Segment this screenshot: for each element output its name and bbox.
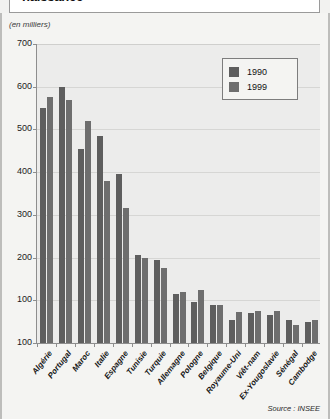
y-axis-tick-label: 100 <box>4 337 32 347</box>
y-axis-tick-label: 700 <box>4 38 32 48</box>
x-axis-tick <box>188 343 189 347</box>
bar-group <box>77 44 96 343</box>
bar-1999 <box>312 320 318 343</box>
bar-group <box>153 44 172 343</box>
y-axis-tick-label: 600 <box>4 81 32 91</box>
legend-label-1999: 1999 <box>247 82 267 92</box>
bar-1990 <box>116 174 122 343</box>
legend-label-1990: 1990 <box>247 67 267 77</box>
x-axis-tick <box>37 343 38 347</box>
bar-group <box>58 44 77 343</box>
y-axis-tick-label: 100 <box>4 294 32 304</box>
bar-1990 <box>286 320 292 343</box>
legend-swatch-1990 <box>229 67 239 77</box>
bar-1999 <box>217 305 223 343</box>
bar-group <box>304 44 323 343</box>
bar-1999 <box>255 311 261 343</box>
bar-1990 <box>135 255 141 343</box>
x-axis-tick <box>264 343 265 347</box>
y-axis-tick <box>33 129 37 130</box>
y-axis-tick <box>33 172 37 173</box>
bar-group <box>39 44 58 343</box>
x-axis-line <box>36 343 320 344</box>
y-axis-tick <box>33 215 37 216</box>
bar-1999 <box>180 292 186 343</box>
bar-1990 <box>305 322 311 343</box>
x-axis-tick <box>75 343 76 347</box>
bar-1999 <box>123 208 129 343</box>
bar-1990 <box>40 108 46 343</box>
bar-1990 <box>267 315 273 343</box>
bar-group <box>115 44 134 343</box>
y-axis: 100100200300400500600700 <box>0 44 32 343</box>
y-axis-tick-label: 300 <box>4 209 32 219</box>
y-axis-tick-label: 500 <box>4 123 32 133</box>
bar-1999 <box>104 181 110 343</box>
bar-1999 <box>142 258 148 343</box>
x-axis-tick <box>226 343 227 347</box>
bar-1990 <box>59 87 65 343</box>
bar-1999 <box>85 121 91 343</box>
x-axis-tick <box>56 343 57 347</box>
legend-swatch-1999 <box>229 82 239 92</box>
chart-legend: 1990 1999 <box>222 58 298 100</box>
bar-group <box>190 44 209 343</box>
x-axis-tick <box>132 343 133 347</box>
x-axis-tick <box>170 343 171 347</box>
bar-1990 <box>173 294 179 343</box>
page-title: naissance <box>22 0 83 4</box>
x-axis-tick <box>283 343 284 347</box>
bar-1990 <box>97 136 103 343</box>
y-axis-tick-label: 200 <box>4 252 32 262</box>
bar-1990 <box>191 302 197 343</box>
bar-1999 <box>161 268 167 343</box>
bar-group <box>96 44 115 343</box>
y-axis-tick <box>33 258 37 259</box>
bar-1999 <box>293 325 299 343</box>
y-axis-tick <box>33 87 37 88</box>
x-axis-tick <box>207 343 208 347</box>
chart-figure: naissance (en milliers) 1001002003004005… <box>0 0 330 419</box>
bar-group <box>172 44 191 343</box>
bar-1990 <box>154 260 160 343</box>
bar-1990 <box>78 149 84 343</box>
y-axis-tick <box>33 44 37 45</box>
chart-title-bar: naissance <box>9 0 320 13</box>
x-axis-tick <box>94 343 95 347</box>
bar-1990 <box>248 313 254 343</box>
axis-unit-label: (en milliers) <box>9 20 50 29</box>
source-note: Source : INSEE <box>267 404 320 413</box>
bar-1999 <box>47 97 53 343</box>
legend-item: 1999 <box>229 79 291 94</box>
legend-item: 1990 <box>229 64 291 79</box>
y-axis-tick <box>33 300 37 301</box>
x-axis-tick <box>245 343 246 347</box>
bar-1990 <box>210 305 216 343</box>
x-axis-tick <box>151 343 152 347</box>
y-axis-tick-label: 400 <box>4 166 32 176</box>
bar-1999 <box>274 311 280 343</box>
bar-1990 <box>229 320 235 343</box>
x-axis-tick <box>302 343 303 347</box>
x-axis-tick <box>113 343 114 347</box>
bar-group <box>134 44 153 343</box>
bar-1999 <box>236 312 242 343</box>
bar-1999 <box>198 290 204 343</box>
bar-1999 <box>66 100 72 343</box>
